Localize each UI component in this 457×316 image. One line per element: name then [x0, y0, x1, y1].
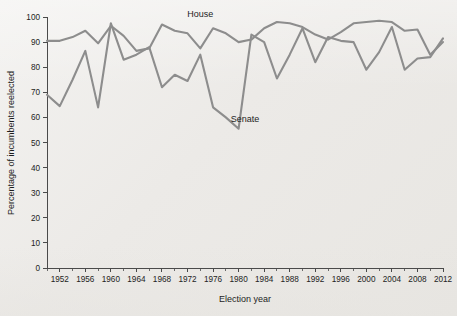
x-tick-label: 1968: [153, 275, 172, 284]
series-label-senate: Senate: [231, 114, 260, 124]
x-tick-label: 1956: [76, 275, 95, 284]
y-axis-ticks: 0102030405060708090100: [26, 13, 47, 273]
x-tick-label: 2008: [408, 275, 427, 284]
y-tick-label: 80: [31, 63, 41, 72]
y-axis-title: Percentage of incumbents reelected: [6, 71, 16, 215]
x-tick-label: 1996: [332, 275, 351, 284]
x-tick-label: 2012: [434, 275, 453, 284]
x-tick-label: 1992: [306, 275, 325, 284]
y-tick-label: 30: [31, 189, 41, 198]
x-tick-label: 1960: [102, 275, 121, 284]
series-line-senate: [47, 23, 443, 128]
x-tick-label: 1964: [127, 275, 146, 284]
series-labels-group: HouseSenate: [187, 9, 259, 124]
x-tick-label: 1976: [204, 275, 223, 284]
chart-figure: 0102030405060708090100 19521956196019641…: [0, 0, 457, 316]
x-tick-label: 1972: [178, 275, 197, 284]
y-tick-label: 10: [31, 239, 41, 248]
y-tick-label: 0: [35, 264, 40, 273]
series-label-house: House: [187, 9, 213, 19]
x-tick-label: 1984: [255, 275, 274, 284]
y-tick-label: 20: [31, 214, 41, 223]
line-chart: 0102030405060708090100 19521956196019641…: [0, 0, 457, 316]
x-tick-label: 1980: [230, 275, 249, 284]
x-axis-title: Election year: [219, 294, 271, 304]
y-tick-label: 70: [31, 88, 41, 97]
y-tick-label: 100: [26, 13, 40, 22]
x-tick-label: 2004: [383, 275, 402, 284]
y-tick-label: 60: [31, 113, 41, 122]
x-tick-label: 1952: [51, 275, 70, 284]
y-tick-label: 50: [31, 139, 41, 148]
x-axis-ticks: 1952195619601964196819721976198019841988…: [47, 268, 453, 284]
data-series-group: [47, 21, 443, 129]
x-tick-label: 2000: [357, 275, 376, 284]
y-tick-label: 90: [31, 38, 41, 47]
y-tick-label: 40: [31, 164, 41, 173]
x-tick-label: 1988: [281, 275, 300, 284]
